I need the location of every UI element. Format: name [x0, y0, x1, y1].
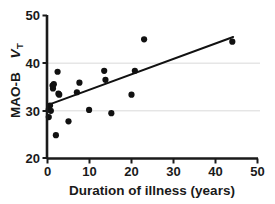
- x-tick-label-10: 10: [82, 164, 96, 179]
- y-axis-title-subscript: T: [14, 43, 25, 49]
- data-point: [101, 68, 107, 74]
- y-tick-label-20: 20: [26, 151, 40, 166]
- y-axis-title-main: MAO-B: [8, 72, 23, 118]
- y-axis-title: MAO-B V T: [8, 43, 25, 118]
- y-tick-label-40: 40: [26, 56, 40, 71]
- data-point: [48, 108, 54, 114]
- data-point: [86, 107, 92, 113]
- y-axis-title-symbol: V: [8, 49, 23, 59]
- data-point: [108, 110, 114, 116]
- gridlines: [47, 63, 260, 111]
- y-axis: 50 40 30 20: [26, 8, 47, 166]
- data-point: [56, 92, 62, 98]
- data-point: [102, 77, 108, 83]
- x-tick-label-0: 0: [44, 164, 51, 179]
- data-point: [132, 68, 138, 74]
- x-tick-label-20: 20: [124, 164, 138, 179]
- data-point: [74, 89, 80, 95]
- data-point: [229, 39, 235, 45]
- chart-canvas: 50 40 30 20 0 10 20 30 40 50 Duration of…: [0, 0, 275, 204]
- x-tick-label-40: 40: [208, 164, 222, 179]
- y-tick-label-30: 30: [26, 104, 40, 119]
- data-point: [53, 132, 59, 138]
- x-tick-label-50: 50: [250, 164, 264, 179]
- data-point: [65, 118, 71, 124]
- data-point: [51, 81, 57, 87]
- data-point: [54, 69, 60, 75]
- x-axis-title: Duration of illness (years): [69, 183, 235, 198]
- x-tick-label-30: 30: [166, 164, 180, 179]
- x-axis: 0 10 20 30 40 50: [44, 159, 265, 180]
- y-tick-label-50: 50: [26, 8, 40, 23]
- data-point: [141, 36, 147, 42]
- data-point: [76, 80, 82, 86]
- scatter-plot-figure: 50 40 30 20 0 10 20 30 40 50 Duration of…: [0, 0, 275, 204]
- data-point: [128, 92, 134, 98]
- data-points: [46, 36, 236, 138]
